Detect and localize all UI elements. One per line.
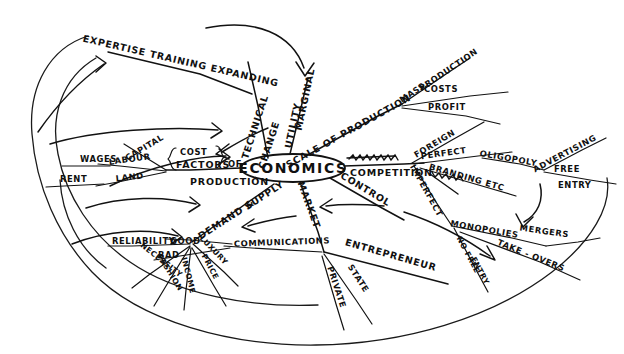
arrow-to-demand-cluster [86, 197, 200, 212]
branch-demand-supply[interactable]: DEMAND & SUPPLY [192, 178, 286, 242]
branch-entrepreneur[interactable]: ENTREPRENEUR [324, 236, 448, 284]
feedback-loop-left-sweep [60, 180, 106, 268]
label-state: STATE [346, 262, 371, 294]
arrow-to-expertise [38, 56, 106, 132]
mindmap-drawing: ECONOMICS TECHNICAL CHANGE EXPERTISE TRA… [0, 0, 624, 354]
branch-rent[interactable]: RENT [46, 174, 104, 187]
label-private: PRIVATE [325, 265, 348, 309]
label-oligopoly: OLIGOPOLY [479, 148, 538, 168]
mindmap-canvas: ECONOMICS TECHNICAL CHANGE EXPERTISE TRA… [0, 0, 624, 354]
label-production-factors: PRODUCTION [190, 176, 269, 187]
feedback-loop-outer [32, 36, 608, 345]
label-expertise: EXPERTISE TRAINING EXPANDING [82, 33, 280, 89]
label-of: OF [228, 159, 242, 169]
branch-income[interactable]: INCOME [180, 248, 198, 310]
branch-expertise[interactable]: EXPERTISE TRAINING EXPANDING [82, 33, 280, 94]
branch-profit[interactable]: PROFIT [402, 102, 500, 124]
label-factors: FACTORS [176, 159, 230, 170]
struck-word-above-competition [347, 155, 398, 160]
label-cost: COST [180, 147, 207, 157]
label-mergers: MERGERS [519, 223, 570, 240]
label-entry: ENTRY [558, 180, 592, 190]
branch-marginal-utility[interactable]: MARGINAL UTILITY [282, 67, 316, 154]
branch-private[interactable]: PRIVATE [322, 256, 348, 330]
label-free: FREE [554, 164, 580, 174]
arrow-to-market [320, 199, 384, 213]
branch-land[interactable]: LAND [96, 171, 166, 186]
branch-communications[interactable]: COMMUNICATIONS [224, 235, 330, 252]
curly-brace-left [168, 148, 176, 170]
branch-branding[interactable]: BRANDING ETC [420, 162, 516, 196]
label-market: MARKET [296, 180, 323, 230]
arrow-to-supply [242, 216, 296, 232]
label-wages: WAGES [80, 154, 117, 164]
label-profit: PROFIT [428, 102, 466, 112]
label-land: LAND [115, 171, 144, 184]
arrow-to-technical-change [50, 123, 222, 144]
arrow-to-monopolies [404, 212, 495, 260]
label-communications: COMMUNICATIONS [234, 235, 331, 248]
label-rent: RENT [60, 174, 87, 184]
branch-free-entry[interactable]: FREE ENTRY [544, 164, 616, 190]
arrow-entrepreneur-sweep [516, 184, 541, 227]
branch-no-free-entry[interactable]: NO FREE ENTRY [454, 228, 491, 292]
label-costs: COSTS [424, 84, 458, 94]
label-branding: BRANDING ETC [428, 162, 506, 193]
